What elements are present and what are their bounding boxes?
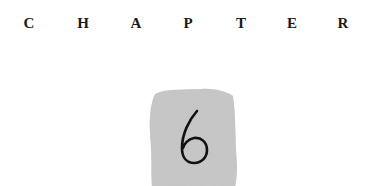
chapter-number-block bbox=[149, 84, 239, 186]
chapter-number-six bbox=[149, 84, 239, 186]
chapter-letter: H bbox=[77, 13, 89, 33]
chapter-letter: A bbox=[131, 13, 142, 33]
chapter-letter: E bbox=[287, 13, 297, 33]
chapter-letter: P bbox=[183, 13, 192, 33]
chapter-letter: T bbox=[236, 13, 246, 33]
chapter-heading: C H A P T E R bbox=[0, 13, 378, 33]
chapter-letter: R bbox=[338, 13, 349, 33]
chapter-letter: C bbox=[24, 13, 35, 33]
